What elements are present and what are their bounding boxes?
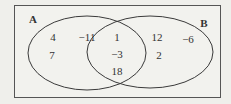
a-only-element: 7 xyxy=(49,50,55,61)
a-only-element: 4 xyxy=(50,32,56,43)
set-b-label: B xyxy=(200,18,207,29)
intersection-element: 18 xyxy=(112,66,123,77)
intersection-element: 1 xyxy=(114,32,120,43)
set-a-label: A xyxy=(29,14,37,25)
b-only-element: −6 xyxy=(182,34,194,45)
a-only-element: −11 xyxy=(79,32,96,43)
intersection-element: −3 xyxy=(111,49,123,60)
b-only-element: 12 xyxy=(152,32,163,43)
b-only-element: 2 xyxy=(156,50,162,61)
